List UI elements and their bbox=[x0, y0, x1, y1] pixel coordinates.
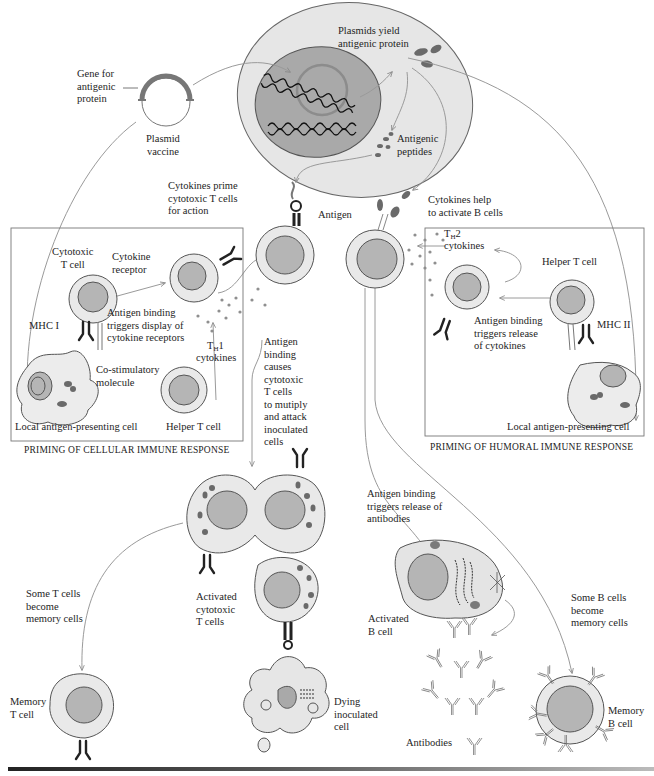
memory-t-cell bbox=[50, 674, 114, 759]
label-plasmids-yield: Plasmids yield antigenic protein bbox=[338, 25, 409, 50]
label-memory-t-cell: Memory T cell bbox=[10, 696, 46, 721]
label-helper-t-cell-left: Helper T cell bbox=[166, 421, 221, 434]
dividing-cytotoxic-t-cells bbox=[187, 449, 325, 573]
bottom-divider-rule bbox=[8, 767, 654, 771]
label-th2-cytokines-word: cytokines bbox=[444, 240, 484, 253]
primed-cytotoxic-t-cell bbox=[170, 247, 241, 302]
label-cytokines-prime: Cytokines prime cytotoxic T cells for ac… bbox=[168, 180, 238, 218]
label-th1-cytokines-word: cytokines bbox=[196, 352, 236, 365]
label-cytokine-receptor: Cytokine receptor bbox=[112, 251, 151, 276]
label-plasmid-vaccine: Plasmid vaccine bbox=[146, 133, 180, 158]
label-antigen: Antigen bbox=[318, 209, 352, 222]
label-some-b-cells-memory: Some B cells become memory cells bbox=[571, 592, 628, 630]
label-cytokines-help: Cytokines help to activate B cells bbox=[428, 194, 503, 219]
label-mhc-ii: MHC II bbox=[597, 319, 631, 332]
label-activated-b-cell: Activated B cell bbox=[368, 613, 409, 638]
label-antigen-binding-release-cytokines: Antigen binding triggers release of cyto… bbox=[474, 315, 543, 353]
caption-priming-humoral: PRIMING OF HUMORAL IMMUNE RESPONSE bbox=[430, 442, 633, 452]
label-helper-t-cell-right: Helper T cell bbox=[542, 256, 597, 269]
caption-priming-cellular: PRIMING OF CELLULAR IMMUNE RESPONSE bbox=[24, 445, 229, 455]
activated-b-cell bbox=[395, 540, 505, 618]
activated-cytotoxic-t-cell bbox=[255, 557, 318, 649]
central-cytotoxic-t-cell bbox=[256, 182, 314, 284]
label-cytotoxic-t-cell: Cytotoxic T cell bbox=[52, 246, 93, 271]
local-apc-left bbox=[17, 351, 98, 425]
central-b-cell bbox=[346, 189, 412, 288]
label-activated-cytotoxic-t-cells: Activated cytotoxic T cells bbox=[196, 591, 237, 629]
label-co-stimulatory-molecule: Co-stimulatory molecule bbox=[96, 364, 160, 389]
label-antigenic-peptides: Antigenic peptides bbox=[397, 133, 438, 158]
antibodies-cluster bbox=[421, 618, 504, 755]
label-some-t-cells-memory: Some T cells become memory cells bbox=[26, 588, 83, 626]
dying-inoculated-cell bbox=[244, 657, 329, 752]
label-local-apc-left: Local antigen-presenting cell bbox=[15, 421, 137, 434]
plasmid-vaccine-diagram: Gene for antigenic protein Plasmid vacci… bbox=[0, 0, 654, 776]
helper-t-cell-right bbox=[550, 280, 594, 350]
label-dying-inoculated-cell: Dying inoculated cell bbox=[334, 696, 378, 734]
memory-b-cell bbox=[529, 665, 614, 752]
plasmid-vaccine-icon bbox=[123, 76, 194, 126]
label-local-apc-right: Local antigen-presenting cell bbox=[507, 421, 629, 434]
label-mhc-i: MHC I bbox=[29, 320, 59, 333]
label-antigen-binding-causes: Antigen binding causes cytotoxic T cells… bbox=[264, 336, 308, 449]
label-antigen-binding-antibodies: Antigen binding triggers release of anti… bbox=[367, 488, 442, 526]
label-antigen-binding-display: Antigen binding triggers display of cyto… bbox=[107, 307, 184, 345]
local-apc-right bbox=[568, 362, 641, 427]
label-antibodies: Antibodies bbox=[406, 737, 452, 750]
th2-cytokine-dots bbox=[407, 232, 444, 296]
label-gene-for-antigenic-protein: Gene for antigenic protein bbox=[77, 68, 115, 106]
label-memory-b-cell: Memory B cell bbox=[608, 705, 644, 730]
helper-t-cell-left bbox=[161, 367, 207, 413]
